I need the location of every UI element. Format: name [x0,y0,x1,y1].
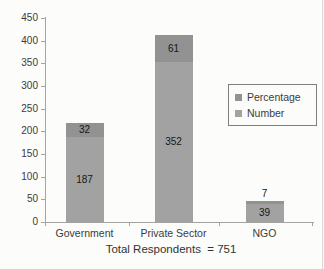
legend-label-percentage: Percentage [247,89,301,105]
chart-caption: Total Respondents = 751 [30,243,312,258]
y-axis-tick-label: 250 [8,103,38,115]
legend-item-number: Number [235,105,316,121]
bar-value-label-number-ngo: 39 [245,207,285,219]
x-axis-tick-mark [129,222,130,226]
bar-value-label-percentage-government: 32 [65,124,105,136]
y-axis-tick-label: 400 [8,35,38,47]
y-axis-tick-mark [41,154,45,155]
scanned-chart-page: PercentageNumber Total Respondents = 751… [0,0,324,269]
x-axis-line [45,222,314,223]
y-axis-tick-mark [41,131,45,132]
y-axis-tick-mark [41,109,45,110]
x-axis-tick-mark [219,222,220,226]
legend-label-number: Number [247,105,284,121]
y-axis-tick-label: 100 [8,171,38,183]
legend-item-percentage: Percentage [235,89,316,105]
chart-legend: PercentageNumber [228,84,317,126]
y-axis-tick-label: 150 [8,148,38,160]
y-axis-tick-mark [41,18,45,19]
y-axis-line [45,17,46,223]
y-axis-tick-mark [41,63,45,64]
y-axis-tick-label: 350 [8,57,38,69]
legend-swatch-percentage [235,94,242,101]
bar-value-label-percentage-private-sector: 61 [154,43,194,55]
scan-page-edge-line [322,0,323,269]
bar-value-label-percentage-ngo: 7 [245,188,285,200]
bar-segment-percentage-ngo [246,201,284,204]
y-axis-tick-label: 450 [8,12,38,24]
y-axis-tick-mark [41,41,45,42]
y-axis-tick-label: 50 [8,193,38,205]
stacked-bar-chart: PercentageNumber Total Respondents = 751… [0,0,324,269]
x-axis-category-label-ngo: NGO [210,227,320,240]
legend-swatch-number [235,110,242,117]
bar-value-label-number-private-sector: 352 [154,136,194,148]
y-axis-tick-label: 300 [8,80,38,92]
x-axis-tick-mark [45,222,46,226]
x-axis-tick-mark [312,222,313,226]
y-axis-tick-mark [41,177,45,178]
y-axis-tick-mark [41,86,45,87]
y-axis-tick-mark [41,199,45,200]
y-axis-tick-label: 200 [8,125,38,137]
bar-value-label-number-government: 187 [65,174,105,186]
